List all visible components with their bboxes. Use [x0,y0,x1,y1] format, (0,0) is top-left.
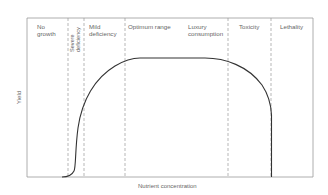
zone-label-toxicity: Toxicity [239,23,259,30]
zone-dividers [68,18,271,177]
y-axis-label: Yield [16,91,22,104]
x-axis-label: Nutrient concentration [138,183,197,189]
zone-label-severe-deficiency: Severe deficiency [69,27,81,52]
zone-label-mild-deficiency: Mild deficiency [89,23,117,37]
zone-label-luxury-consumption: Luxury consumption [188,23,223,37]
zone-label-optimum-range: Optimum range [128,23,171,30]
zone-label-lethality: Lethality [280,23,303,30]
yield-curve [62,58,272,177]
zone-label-no-growth: No growth [37,23,56,37]
